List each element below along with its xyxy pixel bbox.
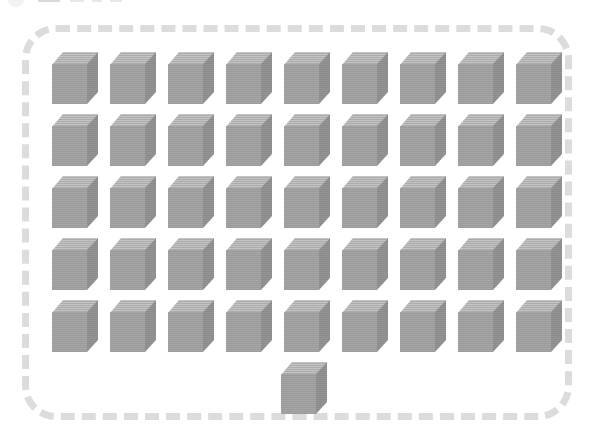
cube[interactable] — [458, 114, 504, 166]
cube[interactable] — [168, 300, 214, 352]
cube[interactable] — [284, 176, 330, 228]
cube-front-face — [400, 250, 435, 290]
cube-front-face — [516, 64, 551, 104]
cube-front-face — [52, 250, 87, 290]
cube[interactable] — [110, 300, 156, 352]
cube-remainder[interactable] — [281, 362, 327, 414]
cube[interactable] — [284, 52, 330, 104]
cube[interactable] — [284, 238, 330, 290]
header-bar-fragment-4 — [110, 0, 122, 2]
cube[interactable] — [342, 300, 388, 352]
header-bar-fragment-2 — [70, 0, 84, 2]
cube[interactable] — [52, 238, 98, 290]
cube-front-face — [458, 312, 493, 352]
cube[interactable] — [284, 300, 330, 352]
cube[interactable] — [226, 176, 272, 228]
cube[interactable] — [342, 238, 388, 290]
cube[interactable] — [516, 52, 562, 104]
cube-front-face — [52, 312, 87, 352]
cube[interactable] — [52, 114, 98, 166]
cube[interactable] — [400, 114, 446, 166]
cube-front-face — [110, 188, 145, 228]
cube-front-face — [168, 312, 203, 352]
cube-front-face — [342, 64, 377, 104]
cube[interactable] — [110, 114, 156, 166]
cube[interactable] — [400, 176, 446, 228]
cube-front-face — [458, 250, 493, 290]
cube[interactable] — [516, 114, 562, 166]
cube-front-face — [110, 250, 145, 290]
cube-front-face — [516, 312, 551, 352]
cube[interactable] — [226, 114, 272, 166]
cube[interactable] — [458, 300, 504, 352]
cube[interactable] — [168, 176, 214, 228]
cube-front-face — [226, 64, 261, 104]
cube[interactable] — [110, 176, 156, 228]
cube[interactable] — [284, 114, 330, 166]
cube[interactable] — [400, 52, 446, 104]
cube-front-face — [284, 188, 319, 228]
cube-front-face — [226, 126, 261, 166]
cube[interactable] — [110, 52, 156, 104]
cube[interactable] — [52, 300, 98, 352]
cube[interactable] — [458, 238, 504, 290]
cube-front-face — [458, 126, 493, 166]
cube-front-face — [52, 126, 87, 166]
header-bar-fragment-3 — [92, 0, 102, 2]
cube-front-face — [52, 64, 87, 104]
cube[interactable] — [342, 114, 388, 166]
cube-front-face — [284, 126, 319, 166]
clipped-header-fragment — [0, 0, 595, 10]
cube-front-face — [400, 64, 435, 104]
cube-front-face — [342, 126, 377, 166]
cube-front-face — [516, 250, 551, 290]
cube-front-face — [226, 188, 261, 228]
cube-front-face — [342, 250, 377, 290]
cube-front-face — [110, 312, 145, 352]
cube[interactable] — [226, 52, 272, 104]
header-bar-fragment-1 — [38, 0, 60, 2]
cube-front-face — [516, 126, 551, 166]
cube[interactable] — [458, 52, 504, 104]
cube-front-face — [516, 188, 551, 228]
cube-front-face — [226, 312, 261, 352]
cube-front-face — [168, 126, 203, 166]
cube[interactable] — [226, 300, 272, 352]
cube-front-face — [342, 188, 377, 228]
cube-front-face — [281, 374, 316, 414]
cube-front-face — [284, 250, 319, 290]
cube[interactable] — [52, 176, 98, 228]
cube-front-face — [342, 312, 377, 352]
cube-front-face — [168, 64, 203, 104]
cube[interactable] — [400, 300, 446, 352]
cube[interactable] — [516, 176, 562, 228]
cube[interactable] — [52, 52, 98, 104]
cube-front-face — [284, 312, 319, 352]
cube[interactable] — [226, 238, 272, 290]
cube[interactable] — [168, 238, 214, 290]
cube-front-face — [400, 188, 435, 228]
cube-front-face — [168, 250, 203, 290]
cube[interactable] — [342, 176, 388, 228]
cube-front-face — [284, 64, 319, 104]
cube-front-face — [110, 126, 145, 166]
cube-front-face — [226, 250, 261, 290]
cube[interactable] — [458, 176, 504, 228]
cube-front-face — [110, 64, 145, 104]
cube-front-face — [400, 126, 435, 166]
cube[interactable] — [516, 300, 562, 352]
cube-front-face — [52, 188, 87, 228]
cube-front-face — [458, 188, 493, 228]
cube[interactable] — [516, 238, 562, 290]
cube[interactable] — [168, 52, 214, 104]
cube-front-face — [458, 64, 493, 104]
cube[interactable] — [342, 52, 388, 104]
header-circle-icon — [8, 0, 24, 7]
cube[interactable] — [400, 238, 446, 290]
cube[interactable] — [168, 114, 214, 166]
cube-front-face — [168, 188, 203, 228]
cube[interactable] — [110, 238, 156, 290]
cube-front-face — [400, 312, 435, 352]
